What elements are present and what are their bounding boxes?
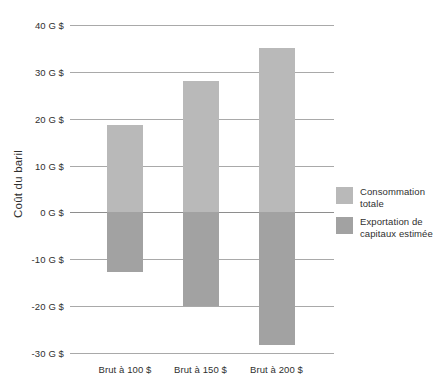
legend-entry: Consommation totale <box>336 186 440 209</box>
y-tick-label: 0 G $ <box>40 207 64 218</box>
x-tick-label: Brut à 200 $ <box>222 364 332 375</box>
legend-entry: Exportation de capitaux estimée <box>336 216 440 239</box>
bar-consommation-totale <box>259 48 295 212</box>
gridline: 40 G $ <box>70 25 334 26</box>
y-tick-label: -30 G $ <box>32 348 64 359</box>
bar-exportation-capitaux <box>259 212 295 345</box>
bar-consommation-totale <box>183 81 219 212</box>
plot-area: 40 G $30 G $20 G $10 G $0 G $-10 G $-20 … <box>70 25 334 353</box>
bar-consommation-totale <box>107 125 143 213</box>
bar-chart: Coût du baril 40 G $30 G $20 G $10 G $0 … <box>0 0 441 391</box>
y-axis-title: Coût du baril <box>12 129 24 239</box>
gridline: -30 G $ <box>70 353 334 354</box>
legend-swatch-icon <box>336 217 353 234</box>
y-tick-label: 10 G $ <box>35 160 64 171</box>
legend-label: Exportation de capitaux estimée <box>360 216 440 239</box>
y-tick-label: -20 G $ <box>32 301 64 312</box>
legend-label: Consommation totale <box>360 186 440 209</box>
legend-swatch-icon <box>336 187 353 204</box>
y-tick-label: -10 G $ <box>32 254 64 265</box>
bar-exportation-capitaux <box>183 212 219 305</box>
y-tick-label: 30 G $ <box>35 66 64 77</box>
chart-legend: Consommation totaleExportation de capita… <box>336 186 440 246</box>
y-tick-label: 20 G $ <box>35 113 64 124</box>
bar-exportation-capitaux <box>107 212 143 272</box>
y-tick-label: 40 G $ <box>35 20 64 31</box>
